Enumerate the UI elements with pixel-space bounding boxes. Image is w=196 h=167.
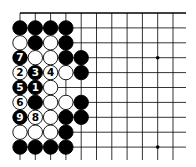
move-number: 4 (47, 66, 54, 78)
black-stone[interactable] (43, 21, 57, 35)
black-stone[interactable] (13, 140, 27, 154)
white-stone[interactable] (43, 51, 57, 65)
white-stone[interactable] (59, 65, 73, 79)
black-stone[interactable] (28, 140, 42, 154)
move-number: 8 (32, 111, 39, 123)
white-stone[interactable]: 8 (28, 110, 42, 124)
white-stone[interactable] (13, 36, 27, 50)
white-stone[interactable]: 2 (13, 65, 27, 79)
black-stone[interactable]: 5 (13, 80, 27, 94)
white-stone[interactable]: 6 (13, 95, 27, 109)
black-stone[interactable] (59, 21, 73, 35)
black-stone[interactable] (59, 110, 73, 124)
move-number: 2 (16, 66, 23, 78)
white-stone[interactable] (13, 125, 27, 139)
black-stone[interactable]: 1 (28, 80, 42, 94)
move-number: 7 (16, 51, 23, 63)
black-stone[interactable]: 3 (28, 65, 42, 79)
black-stone[interactable] (74, 95, 88, 109)
black-stone[interactable] (59, 140, 73, 154)
move-number: 9 (16, 111, 23, 123)
white-stone[interactable] (43, 125, 57, 139)
black-stone[interactable] (13, 21, 27, 35)
black-stone[interactable] (28, 21, 42, 35)
white-stone[interactable] (28, 51, 42, 65)
star-point-icon (156, 145, 160, 149)
black-stone[interactable] (28, 36, 42, 50)
black-stone[interactable]: 9 (13, 110, 27, 124)
black-stone[interactable] (74, 110, 88, 124)
white-stone[interactable] (43, 110, 57, 124)
move-number: 6 (16, 96, 23, 108)
black-stone[interactable] (59, 51, 73, 65)
white-stone[interactable] (59, 95, 73, 109)
black-stone[interactable] (74, 65, 88, 79)
white-stone[interactable] (43, 80, 57, 94)
move-number: 1 (32, 81, 39, 93)
black-stone[interactable] (59, 125, 73, 139)
go-board: 723451698 (0, 0, 196, 167)
white-stone[interactable]: 4 (43, 65, 57, 79)
move-number: 3 (32, 66, 39, 78)
star-point-icon (156, 56, 160, 60)
black-stone[interactable]: 7 (13, 51, 27, 65)
black-stone[interactable] (59, 36, 73, 50)
white-stone[interactable] (43, 95, 57, 109)
black-stone[interactable] (43, 140, 57, 154)
black-stone[interactable] (28, 95, 42, 109)
move-number: 5 (16, 81, 23, 93)
white-stone[interactable] (28, 125, 42, 139)
white-stone[interactable] (43, 36, 57, 50)
black-stone[interactable] (74, 51, 88, 65)
